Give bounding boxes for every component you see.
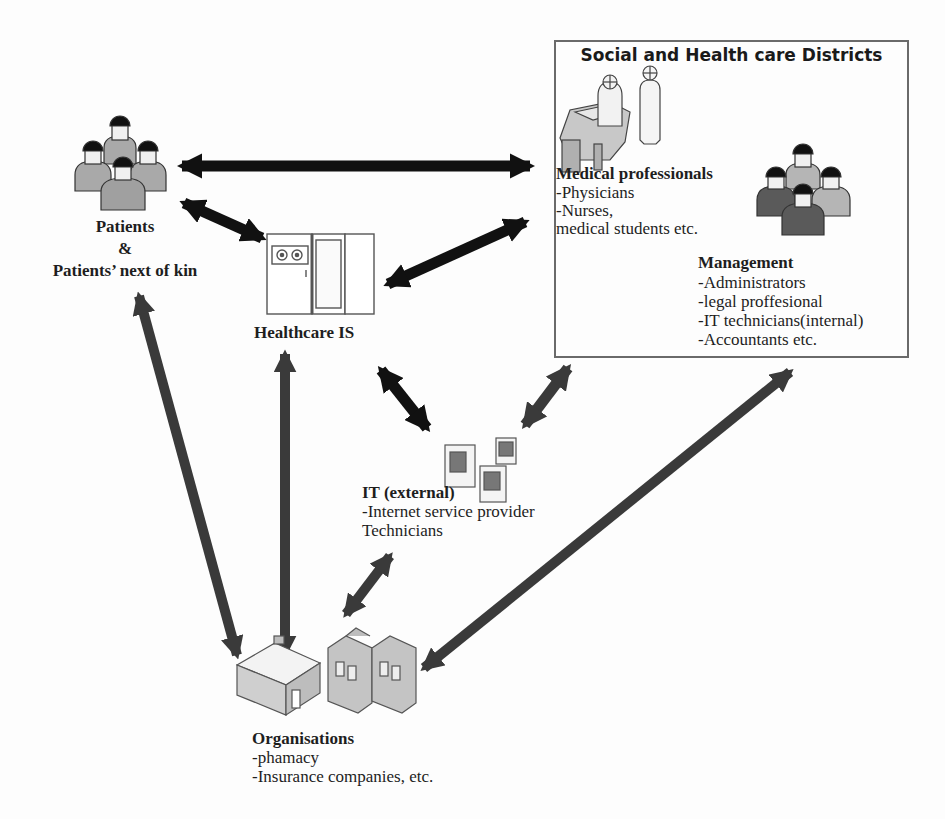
medical-professionals-item: medical students etc. [556, 218, 698, 239]
organisations-item: -Insurance companies, etc. [252, 766, 433, 787]
icons-layer [0, 0, 945, 819]
healthcare-is-label: Healthcare IS [254, 322, 354, 343]
patients-label-line3: Patients’ next of kin [15, 260, 235, 281]
management-group-icon [757, 144, 850, 235]
organisations-item: -phamacy [252, 747, 319, 768]
medical-professionals-heading: Medical professionals [556, 163, 713, 184]
management-item: -Administrators [698, 272, 806, 293]
server-towers-icon [445, 438, 516, 502]
diagram-canvas: Social and Health care Districts [0, 0, 945, 819]
patients-label-line2: & [50, 238, 200, 259]
management-item: -Accountants etc. [698, 329, 817, 350]
it-external-heading: IT (external) [362, 482, 455, 503]
management-item: -IT technicians(internal) [698, 310, 863, 331]
patients-group-icon [75, 116, 166, 210]
mainframe-server-icon [267, 234, 374, 314]
management-heading: Management [698, 252, 793, 273]
houses-icon [237, 628, 416, 715]
management-item: -legal proffesional [698, 291, 823, 312]
organisations-heading: Organisations [252, 728, 354, 749]
it-external-item: -Internet service provider [362, 501, 535, 522]
doctor-at-desk-icon [560, 66, 660, 172]
it-external-item: Technicians [362, 520, 443, 541]
patients-label-line1: Patients [50, 216, 200, 237]
